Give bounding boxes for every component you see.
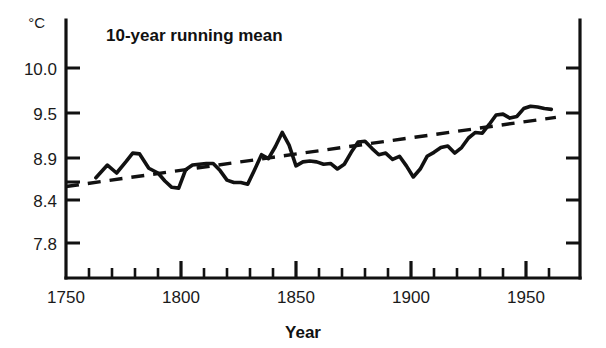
x-tick-label-1800: 1800: [162, 288, 200, 307]
x-tick-label-1950: 1950: [507, 288, 545, 307]
chart-title: 10-year running mean: [106, 26, 283, 45]
y-tick-label-10-0: 10.0: [24, 60, 57, 79]
y-axis-unit-label: °C: [28, 14, 45, 31]
x-tick-label-1900: 1900: [392, 288, 430, 307]
y-tick-label-8-9: 8.9: [33, 150, 57, 169]
x-axis-minor-ticks: [89, 268, 549, 278]
x-tick-label-1750: 1750: [47, 288, 85, 307]
y-tick-label-9-5: 9.5: [33, 105, 57, 124]
x-axis-title: Year: [285, 323, 321, 342]
x-tick-label-1850: 1850: [277, 288, 315, 307]
y-tick-label-7-8: 7.8: [33, 235, 57, 254]
chart-canvas: °C 10-year running mean 10.0 9.5: [0, 0, 606, 348]
y-tick-label-8-4: 8.4: [33, 192, 57, 211]
